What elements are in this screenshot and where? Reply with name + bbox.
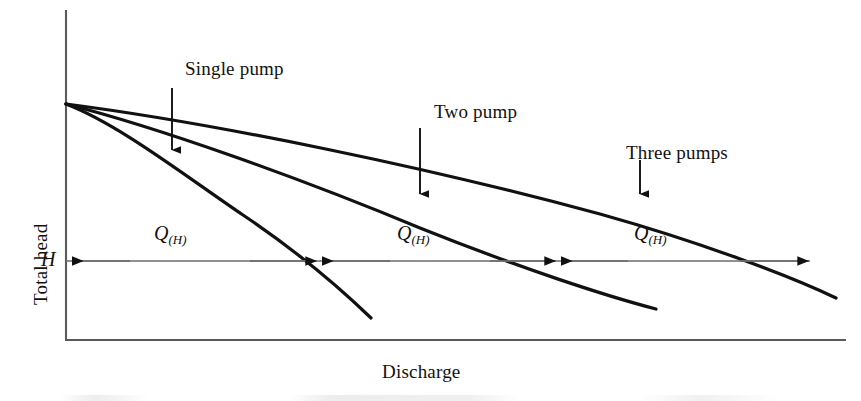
curve-three-pumps (66, 104, 836, 298)
x-axis-title: Discharge (382, 361, 460, 383)
annotation-arrows (172, 88, 640, 194)
segment-label-3: Q(H) (634, 222, 667, 248)
label-single-pump: Single pump (185, 58, 284, 80)
segment-label-2: Q(H) (397, 222, 430, 248)
segment-subscript-1: (H) (168, 232, 186, 247)
segment-subscript-2: (H) (411, 232, 429, 247)
pump-curves (66, 104, 836, 318)
curve-single-pump (66, 104, 371, 318)
segment-symbol-3: Q (634, 222, 648, 244)
pump-curves-figure: Single pump Two pump Three pumps H Q(H) … (0, 0, 861, 401)
segment-symbol-2: Q (397, 222, 411, 244)
label-three-pumps: Three pumps (626, 142, 728, 164)
segment-symbol-1: Q (154, 222, 168, 244)
plot-area (0, 0, 861, 401)
segment-subscript-3: (H) (648, 232, 666, 247)
axis-lines (65, 10, 846, 341)
label-two-pump: Two pump (434, 101, 517, 123)
y-axis-title: Total head (30, 224, 52, 305)
segment-label-1: Q(H) (154, 222, 187, 248)
